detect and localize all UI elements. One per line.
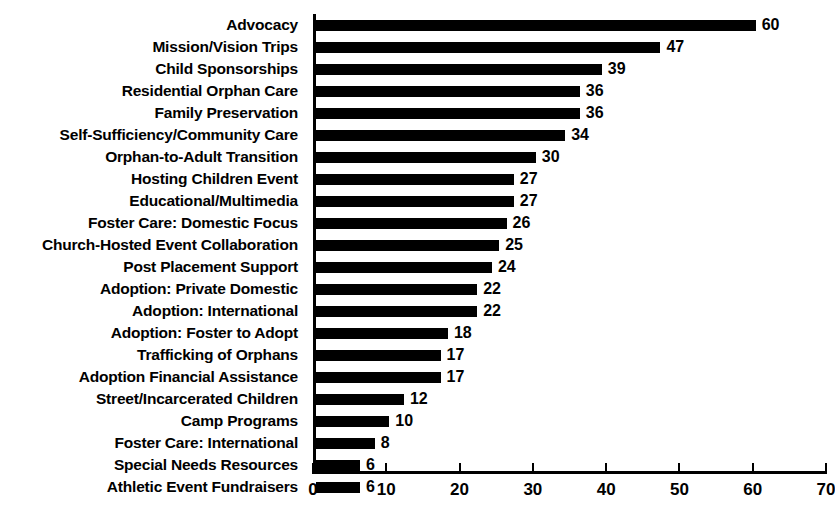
x-axis-tick-label: 70 xyxy=(817,481,835,498)
bar-value-label: 36 xyxy=(586,83,604,99)
bar xyxy=(316,108,580,119)
category-label: Camp Programs xyxy=(0,410,305,432)
bar xyxy=(316,350,441,361)
bar-row: 30 xyxy=(316,146,826,168)
category-label: Residential Orphan Care xyxy=(0,80,305,102)
category-label: Orphan-to-Adult Transition xyxy=(0,146,305,168)
bar-row: 22 xyxy=(316,278,826,300)
bar-value-label: 22 xyxy=(483,303,501,319)
bar xyxy=(316,372,441,383)
category-label: Family Preservation xyxy=(0,102,305,124)
bar xyxy=(316,86,580,97)
bar xyxy=(316,240,499,251)
bar-value-label: 60 xyxy=(762,17,780,33)
x-axis-tick-label: 30 xyxy=(523,481,542,498)
bar xyxy=(316,42,660,53)
category-label: Church-Hosted Event Collaboration xyxy=(0,234,305,256)
bar-rows: 6047393636343027272625242222181717121086… xyxy=(316,14,826,498)
bar xyxy=(316,328,448,339)
bar-value-label: 26 xyxy=(513,215,531,231)
bar-row: 26 xyxy=(316,212,826,234)
bar-value-label: 30 xyxy=(542,149,560,165)
x-axis-tick-label: 20 xyxy=(450,481,469,498)
bar xyxy=(316,394,404,405)
category-label: Special Needs Resources xyxy=(0,454,305,476)
bar xyxy=(316,438,375,449)
x-axis-tick xyxy=(678,463,680,474)
x-axis-tick xyxy=(752,463,754,474)
bar-row: 22 xyxy=(316,300,826,322)
x-axis-tick xyxy=(825,463,827,474)
x-axis-tick xyxy=(385,463,387,474)
bar xyxy=(316,20,756,31)
category-label: Child Sponsorships xyxy=(0,58,305,80)
bar-value-label: 12 xyxy=(410,391,428,407)
bar xyxy=(316,130,565,141)
bar xyxy=(316,284,477,295)
bar xyxy=(316,416,389,427)
bar-value-label: 24 xyxy=(498,259,516,275)
x-axis-tick-labels: 010203040506070 xyxy=(313,481,826,505)
category-label-column: AdvocacyMission/Vision TripsChild Sponso… xyxy=(0,14,305,498)
category-label: Hosting Children Event xyxy=(0,168,305,190)
category-label: Adoption: International xyxy=(0,300,305,322)
bar-value-label: 47 xyxy=(666,39,684,55)
category-label: Adoption: Foster to Adopt xyxy=(0,322,305,344)
category-label: Post Placement Support xyxy=(0,256,305,278)
bar-value-label: 8 xyxy=(381,435,390,451)
x-axis-tick-label: 0 xyxy=(308,481,317,498)
bar-value-label: 25 xyxy=(505,237,523,253)
category-label: Self-Sufficiency/Community Care xyxy=(0,124,305,146)
bar-row: 25 xyxy=(316,234,826,256)
category-label: Trafficking of Orphans xyxy=(0,344,305,366)
plot-area: 6047393636343027272625242222181717121086… xyxy=(313,14,826,473)
x-axis-tick-label: 40 xyxy=(597,481,616,498)
bar-row: 60 xyxy=(316,14,826,36)
category-label: Athletic Event Fundraisers xyxy=(0,476,305,498)
bar-value-label: 22 xyxy=(483,281,501,297)
category-label: Adoption Financial Assistance xyxy=(0,366,305,388)
bar-value-label: 17 xyxy=(447,347,465,363)
bar xyxy=(316,196,514,207)
bar-row: 27 xyxy=(316,190,826,212)
bar-row: 17 xyxy=(316,344,826,366)
x-axis-ticks xyxy=(313,463,826,475)
category-label: Mission/Vision Trips xyxy=(0,36,305,58)
bar-value-label: 34 xyxy=(571,127,589,143)
x-axis-tick-label: 50 xyxy=(670,481,689,498)
bar-row: 12 xyxy=(316,388,826,410)
bar-row: 39 xyxy=(316,58,826,80)
bar-row: 36 xyxy=(316,80,826,102)
bar-value-label: 17 xyxy=(447,369,465,385)
bar-row: 17 xyxy=(316,366,826,388)
bar-row: 36 xyxy=(316,102,826,124)
bar xyxy=(316,152,536,163)
bar-row: 18 xyxy=(316,322,826,344)
bar-value-label: 18 xyxy=(454,325,472,341)
bar xyxy=(316,262,492,273)
bar-row: 10 xyxy=(316,410,826,432)
x-axis-tick xyxy=(605,463,607,474)
category-label: Foster Care: International xyxy=(0,432,305,454)
bar-row: 24 xyxy=(316,256,826,278)
bar-row: 8 xyxy=(316,432,826,454)
bar xyxy=(316,64,602,75)
category-label: Advocacy xyxy=(0,14,305,36)
x-axis-tick xyxy=(459,463,461,474)
x-axis-tick-label: 10 xyxy=(377,481,396,498)
bar-row: 47 xyxy=(316,36,826,58)
bar-value-label: 27 xyxy=(520,193,538,209)
bar xyxy=(316,306,477,317)
bar-row: 27 xyxy=(316,168,826,190)
category-label: Educational/Multimedia xyxy=(0,190,305,212)
bar xyxy=(316,218,507,229)
category-label: Adoption: Private Domestic xyxy=(0,278,305,300)
x-axis-tick xyxy=(532,463,534,474)
category-label: Foster Care: Domestic Focus xyxy=(0,212,305,234)
bar-row: 34 xyxy=(316,124,826,146)
bar-value-label: 27 xyxy=(520,171,538,187)
category-label: Street/Incarcerated Children xyxy=(0,388,305,410)
bar xyxy=(316,174,514,185)
bar-value-label: 10 xyxy=(395,413,413,429)
